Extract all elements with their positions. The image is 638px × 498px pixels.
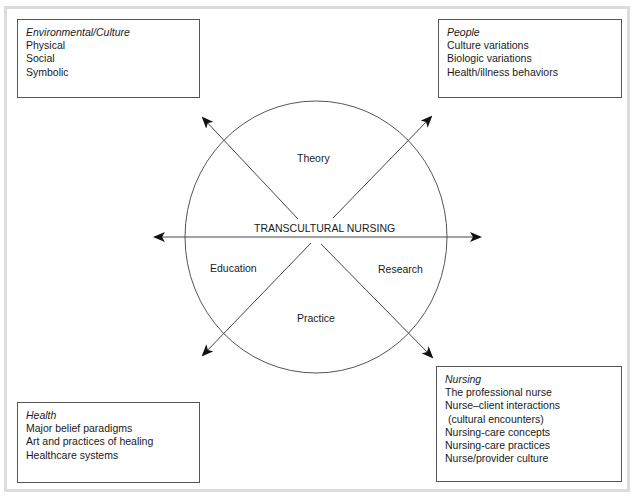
box-title: Health [26, 409, 191, 422]
box-item: Culture variations [447, 39, 613, 52]
box-item: Healthcare systems [26, 449, 191, 462]
quadrant-theory: Theory [297, 152, 330, 164]
arrow-to-people [333, 117, 431, 218]
arrow-to-nursing [321, 244, 432, 357]
box-item: Art and practices of healing [26, 435, 191, 448]
box-nursing: Nursing The professional nurse Nurse–cli… [436, 366, 622, 482]
arrow-to-environment [203, 118, 298, 219]
box-health: Health Major belief paradigms Art and pr… [17, 402, 200, 483]
box-item: Symbolic [26, 66, 191, 79]
center-title: TRANSCULTURAL NURSING [254, 222, 395, 234]
box-item: Nursing-care practices [445, 439, 613, 452]
box-item: Social [26, 52, 191, 65]
quadrant-research: Research [378, 263, 423, 275]
box-item: Nursing-care concepts [445, 426, 613, 439]
box-item: Major belief paradigms [26, 422, 191, 435]
box-item: Biologic variations [447, 52, 613, 65]
box-title: Environmental/Culture [26, 26, 191, 39]
box-people: People Culture variations Biologic varia… [438, 19, 622, 98]
box-title: Nursing [445, 373, 613, 386]
arrow-to-health [203, 243, 311, 355]
quadrant-practice: Practice [297, 312, 335, 324]
box-item: The professional nurse [445, 386, 613, 399]
box-item: Nurse–client interactions [445, 399, 613, 412]
box-item: Physical [26, 39, 191, 52]
box-environmental-culture: Environmental/Culture Physical Social Sy… [17, 19, 200, 98]
quadrant-education: Education [210, 262, 257, 274]
box-item: (cultural encounters) [445, 413, 613, 426]
box-item: Nurse/provider culture [445, 452, 613, 465]
box-item: Health/illness behaviors [447, 66, 613, 79]
box-title: People [447, 26, 613, 39]
